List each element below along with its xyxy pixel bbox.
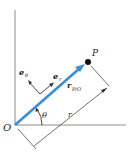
e-theta-label: e xyxy=(19,67,24,77)
r-dimension-extension-origin xyxy=(18,129,36,149)
r-dimension-extension-p xyxy=(91,66,109,86)
e-r-label: e xyxy=(53,71,58,81)
e-theta-subscript: θ xyxy=(25,72,28,78)
r-vector-subscript: P/O xyxy=(71,86,81,92)
origin-label: O xyxy=(3,122,11,133)
polar-diagram: O P e θ e r r P/O θ r xyxy=(0,0,133,158)
point-p xyxy=(85,59,91,65)
r-dimension-label: r xyxy=(68,110,73,119)
e-r-subscript: r xyxy=(59,76,62,82)
theta-label: θ xyxy=(42,111,47,120)
point-p-label: P xyxy=(91,48,99,58)
